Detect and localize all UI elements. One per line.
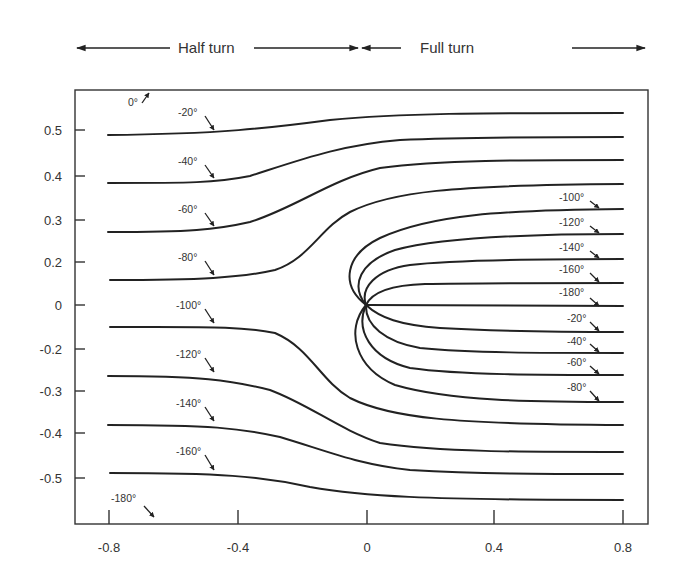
- header-half-turn: Half turn: [77, 39, 358, 56]
- annotations-left: 0°-20°-40°-60°-80°-100°-120°-140°-160°-1…: [111, 93, 214, 517]
- pointer-arrow-icon: [590, 251, 599, 258]
- pointer-arrow-icon: [590, 201, 599, 208]
- pointer-arrow-icon: [590, 366, 599, 374]
- curve-half-minus60: [108, 160, 623, 232]
- pointer-arrow-icon: [205, 165, 214, 178]
- angle-label: -80°: [178, 251, 197, 263]
- x-tick-label: -0.8: [98, 540, 120, 555]
- annotations-right: -100°-120°-140°-160°-180°-20°-40°-60°-80…: [559, 191, 599, 401]
- angle-label: -160°: [176, 445, 201, 457]
- chart: Half turn Full turn 0.50.40.30.20-0.2-0.…: [0, 0, 682, 588]
- pointer-arrow-icon: [590, 344, 599, 352]
- y-axis: 0.50.40.30.20-0.2-0.3-0.4-0.5: [40, 123, 85, 486]
- pointer-arrow-icon: [205, 407, 214, 421]
- pointer-arrow-icon: [205, 213, 214, 226]
- angle-label: -60°: [567, 356, 586, 368]
- angle-label: -100°: [176, 299, 201, 311]
- angle-label: -20°: [178, 106, 197, 118]
- header-full-turn: Full turn: [362, 39, 645, 56]
- full-turn-label: Full turn: [420, 39, 474, 56]
- x-tick-label: -0.4: [227, 540, 249, 555]
- x-tick-label: 0.4: [485, 540, 503, 555]
- pointer-arrow-icon: [205, 261, 214, 275]
- y-tick-label: 0.4: [44, 169, 62, 184]
- x-axis: -0.8-0.400.40.8: [98, 510, 632, 555]
- curve-half-minus100: [110, 327, 623, 425]
- angle-label: -100°: [559, 191, 584, 203]
- angle-label: -20°: [567, 312, 586, 324]
- y-tick-label: 0.5: [44, 123, 62, 138]
- pointer-arrow-icon: [590, 273, 599, 282]
- pointer-arrow-icon: [205, 455, 214, 470]
- y-tick-label: 0: [55, 298, 62, 313]
- curve-full-minus160: [366, 283, 623, 305]
- angle-label: -40°: [567, 335, 586, 347]
- curve-half-minus120: [108, 376, 623, 452]
- curve-half-minus160: [110, 473, 623, 500]
- angle-label: -180°: [111, 492, 136, 504]
- x-tick-label: 0: [363, 540, 370, 555]
- pointer-arrow-icon: [590, 226, 599, 233]
- angle-label: -160°: [559, 263, 584, 275]
- y-tick-label: 0.2: [44, 255, 62, 270]
- half-turn-label: Half turn: [178, 39, 235, 56]
- x-tick-label: 0.8: [614, 540, 632, 555]
- curve-full-minus180: [366, 305, 623, 306]
- angle-label: -80°: [567, 381, 586, 393]
- y-tick-label: -0.4: [40, 426, 62, 441]
- pointer-arrow-icon: [142, 93, 149, 103]
- y-tick-label: -0.5: [40, 471, 62, 486]
- angle-label: -40°: [178, 155, 197, 167]
- pointer-arrow-icon: [144, 506, 154, 517]
- y-tick-label: 0.3: [44, 213, 62, 228]
- angle-label: 0°: [128, 96, 138, 108]
- y-tick-label: -0.2: [40, 342, 62, 357]
- angle-label: -120°: [559, 216, 584, 228]
- angle-label: -60°: [178, 203, 197, 215]
- plot-frame: [75, 90, 648, 524]
- pointer-arrow-icon: [205, 309, 214, 323]
- pointer-arrow-icon: [205, 116, 214, 130]
- curve-full-minus140: [365, 259, 623, 305]
- pointer-arrow-icon: [205, 358, 214, 372]
- pointer-arrow-icon: [590, 322, 599, 331]
- pointer-arrow-icon: [590, 298, 599, 306]
- angle-label: -180°: [559, 286, 584, 298]
- angle-label: -140°: [559, 241, 584, 253]
- angle-label: -120°: [176, 348, 201, 360]
- angle-label: -140°: [176, 397, 201, 409]
- y-tick-label: -0.3: [40, 384, 62, 399]
- pointer-arrow-icon: [590, 391, 599, 401]
